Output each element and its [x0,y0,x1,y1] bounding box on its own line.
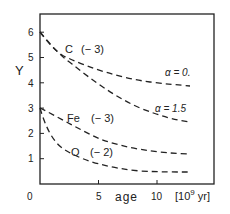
x-tick-10: 10 [151,191,163,202]
y-tick-3: 3 [28,103,34,114]
x-tick-5: 5 [96,191,102,202]
y-tick-1: 1 [28,153,34,164]
y-tick-6: 6 [28,27,34,38]
annotations: C (− 3) α = 0. α = 1.5 Fe (− 3) O (− 2) [65,43,190,158]
label-fe: Fe [67,112,80,124]
y-tick-4: 4 [28,78,34,89]
plot-frame [40,14,214,184]
y-axis-label: Y [15,63,24,78]
x-axis-unit: [109 yr] [175,188,210,202]
y-tick-labels: 1 2 3 4 5 6 [28,27,34,164]
y-tick-2: 2 [28,128,34,139]
curves [40,32,190,172]
x-tick-labels: 0 5 10 [27,191,163,202]
label-fe-exp: (− 3) [91,112,114,124]
label-c-exp: (− 3) [81,43,104,55]
curve-fe [40,108,190,154]
label-o: O [71,146,80,158]
label-alpha-0: α = 0. [165,67,190,78]
chart-figure: 1 2 3 4 5 6 0 5 10 Y age [109 yr] C (− 3… [0,0,230,214]
y-tick-5: 5 [28,52,34,63]
label-c: C [65,43,73,55]
x-axis-label: age [115,190,138,204]
label-o-exp: (− 2) [90,146,113,158]
label-alpha-1-5: α = 1.5 [155,103,186,114]
x-tick-0: 0 [27,191,33,202]
